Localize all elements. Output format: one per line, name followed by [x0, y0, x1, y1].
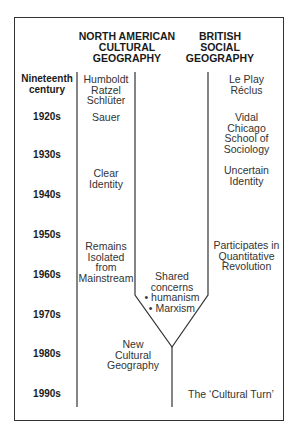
period-1930s: 1930s [18, 150, 76, 161]
period-1950s: 1950s [18, 230, 76, 241]
header-british: BRITISH SOCIAL GEOGRAPHY [185, 31, 255, 64]
period-1960s: 1960s [18, 270, 76, 281]
br-quantitative-revolution: Participates in Quantitative Revolution [209, 240, 284, 272]
period-1970s: 1970s [18, 310, 76, 321]
na-isolated: Remains Isolated from Mainstream [78, 241, 134, 283]
br-uncertain-identity: Uncertain Identity [209, 165, 284, 186]
period-1940s: 1940s [18, 190, 76, 201]
na-1920s-entry: Sauer [78, 112, 134, 123]
period-nineteenth-century: Nineteenthcentury [18, 74, 76, 95]
br-cultural-turn: The ‘Cultural Turn’ [178, 389, 284, 400]
shared-concerns: Shared concerns • humanism • Marxism [136, 271, 208, 313]
period-1980s: 1980s [18, 349, 76, 360]
br-nineteenth-entry: Le Play Réclus [209, 74, 284, 95]
na-new-cultural-geography: New Cultural Geography [98, 339, 168, 371]
period-1920s: 1920s [18, 112, 76, 123]
na-nineteenth-entry: Humboldt Ratzel Schlüter [78, 74, 134, 106]
period-1990s: 1990s [18, 389, 76, 400]
header-north-american: NORTH AMERICAN CULTURAL GEOGRAPHY [72, 31, 182, 64]
br-1920s-entry: Vidal Chicago School of Sociology [209, 112, 284, 154]
na-clear-identity: Clear Identity [78, 168, 134, 189]
